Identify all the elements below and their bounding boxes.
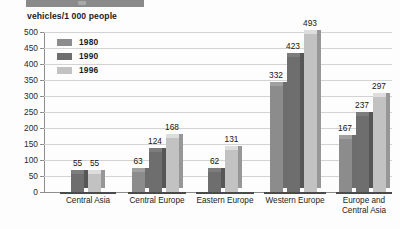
y-tick-200	[40, 128, 44, 129]
bar-1996-europe-and-central-asia[interactable]: 297	[373, 97, 386, 192]
bar-top-face	[373, 93, 386, 97]
y-tick-label-450: 450	[24, 43, 38, 53]
bar-top-face	[270, 82, 283, 86]
y-tick-label-0: 0	[33, 187, 38, 197]
y-tick-label-50: 50	[29, 171, 38, 181]
bar-front-face	[304, 34, 317, 192]
bar-1980-europe-and-central-asia[interactable]: 167	[339, 139, 352, 192]
y-tick-0	[40, 192, 44, 193]
bar-1980-western-europe[interactable]: 332	[270, 86, 283, 192]
bar-1996-central-asia[interactable]: 55	[88, 174, 101, 192]
x-axis-label-central-asia: Central Asia	[66, 196, 110, 206]
bar-value-label: 297	[372, 81, 386, 91]
header-strip-dot	[78, 1, 86, 5]
bar-top-face	[339, 135, 352, 139]
bar-value-label: 131	[225, 134, 239, 144]
bar-1996-central-europe[interactable]: 168	[166, 138, 179, 192]
bar-front-face	[132, 172, 145, 192]
bar-front-face	[71, 174, 84, 192]
group-baseline	[128, 192, 186, 194]
bar-value-label: 168	[165, 122, 179, 132]
x-axis-label-central-europe: Central Europe	[129, 196, 184, 206]
y-tick-400	[40, 64, 44, 65]
group-baseline	[336, 192, 392, 194]
bar-value-label: 493	[303, 18, 317, 28]
bar-group-central-asia: 5555Central Asia	[60, 32, 116, 192]
bar-front-face	[166, 138, 179, 192]
bar-top-face	[208, 168, 221, 172]
y-tick-450	[40, 48, 44, 49]
bar-1996-eastern-europe[interactable]: 131	[225, 150, 238, 192]
bar-top-face	[166, 134, 179, 138]
y-tick-350	[40, 80, 44, 81]
y-tick-label-500: 500	[24, 27, 38, 37]
group-baseline	[196, 192, 254, 194]
bar-front-face	[225, 150, 238, 192]
bar-top-face	[132, 168, 145, 172]
y-tick-50	[40, 176, 44, 177]
bar-group-eastern-europe: 62131Eastern Europe	[196, 32, 254, 192]
bar-side-face	[386, 93, 390, 188]
bar-1990-western-europe[interactable]: 423	[287, 57, 300, 192]
chart-title: vehicles/1 000 people	[27, 11, 117, 21]
x-axis-label-western-europe: Western Europe	[265, 196, 324, 206]
y-tick-label-400: 400	[24, 59, 38, 69]
bar-1996-western-europe[interactable]: 493	[304, 34, 317, 192]
bar-value-label: 63	[133, 156, 142, 166]
bar-side-face	[238, 146, 242, 188]
y-tick-300	[40, 96, 44, 97]
bar-value-label: 423	[286, 41, 300, 51]
bar-top-face	[88, 170, 101, 174]
chart-page: vehicles/1 000 people 050100150200250300…	[0, 0, 400, 229]
bar-top-face	[304, 30, 317, 34]
bar-front-face	[356, 116, 369, 192]
bar-1990-central-asia[interactable]: 55	[71, 174, 84, 192]
x-axis-label-europe-and-central-asia: Europe andCentral Asia	[342, 196, 386, 216]
bar-value-label: 237	[355, 100, 369, 110]
bar-group-europe-and-central-asia: 167237297Europe andCentral Asia	[336, 32, 392, 192]
bar-top-face	[225, 146, 238, 150]
bar-1990-central-europe[interactable]: 124	[149, 152, 162, 192]
bar-top-face	[149, 148, 162, 152]
bar-front-face	[373, 97, 386, 192]
x-axis-label-eastern-europe: Eastern Europe	[197, 196, 254, 206]
y-tick-label-350: 350	[24, 75, 38, 85]
bar-front-face	[88, 174, 101, 192]
bar-value-label: 55	[90, 158, 99, 168]
bar-front-face	[270, 86, 283, 192]
group-baseline	[60, 192, 116, 194]
group-baseline	[264, 192, 326, 194]
header-strip	[26, 0, 144, 7]
bar-value-label: 332	[269, 70, 283, 80]
bar-top-face	[71, 170, 84, 174]
bar-1990-europe-and-central-asia[interactable]: 237	[356, 116, 369, 192]
bar-value-label: 62	[210, 156, 219, 166]
bar-front-face	[339, 139, 352, 192]
bar-value-label: 55	[73, 158, 82, 168]
bar-front-face	[287, 57, 300, 192]
bar-1980-central-europe[interactable]: 63	[132, 172, 145, 192]
bar-1990-eastern-europe[interactable]: 62	[208, 172, 221, 192]
y-tick-label-250: 250	[24, 107, 38, 117]
y-tick-500	[40, 32, 44, 33]
y-tick-label-300: 300	[24, 91, 38, 101]
bar-front-face	[149, 152, 162, 192]
y-tick-label-200: 200	[24, 123, 38, 133]
y-tick-250	[40, 112, 44, 113]
y-tick-150	[40, 144, 44, 145]
plot-area: 050100150200250300350400450500 198019901…	[44, 32, 392, 192]
bar-side-face	[179, 134, 183, 188]
bar-group-western-europe: 332423493Western Europe	[264, 32, 326, 192]
bar-side-face	[317, 30, 321, 188]
y-tick-label-150: 150	[24, 139, 38, 149]
bar-top-face	[356, 112, 369, 116]
bar-side-face	[101, 170, 105, 188]
bar-value-label: 167	[338, 123, 352, 133]
bar-value-label: 124	[148, 136, 162, 146]
bar-top-face	[287, 53, 300, 57]
bar-front-face	[208, 172, 221, 192]
bar-group-central-europe: 63124168Central Europe	[128, 32, 186, 192]
y-tick-label-100: 100	[24, 155, 38, 165]
y-tick-100	[40, 160, 44, 161]
